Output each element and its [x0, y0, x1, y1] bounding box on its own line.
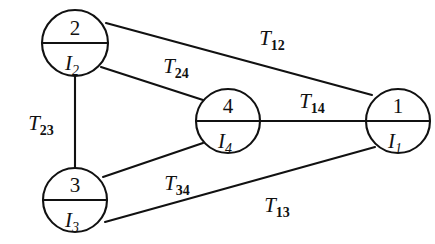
node-3-current-subscript: 3 [71, 220, 79, 235]
node-3[interactable]: 3 I3 [43, 168, 107, 235]
edge-label-24-subscript: 24 [175, 66, 189, 81]
node-1-current-subscript: 1 [395, 141, 402, 156]
edge-line-13 [105, 147, 375, 222]
node-4[interactable]: 4 I4 [196, 89, 260, 156]
edge-label-23-subscript: 23 [40, 123, 54, 138]
diagram-canvas: 2 I2 3 I3 4 I4 1 I1 T12 T24 T23 [0, 0, 435, 244]
node-2-top-label: 2 [70, 16, 81, 40]
edge-label-13: T13 [264, 193, 290, 220]
edge-label-14: T14 [299, 89, 325, 116]
node-2[interactable]: 2 I2 [42, 10, 108, 78]
edge-label-12: T12 [259, 26, 285, 53]
edge-label-23: T23 [28, 111, 54, 138]
network-diagram: 2 I2 3 I3 4 I4 1 I1 T12 T24 T23 [0, 0, 435, 244]
edge-label-24: T24 [163, 54, 189, 81]
edge-label-34-subscript: 34 [176, 183, 190, 198]
node-1[interactable]: 1 I1 [366, 89, 430, 156]
node-4-top-label: 4 [223, 94, 234, 118]
node-4-current-subscript: 4 [225, 141, 232, 156]
node-1-top-label: 1 [393, 94, 404, 118]
node-3-top-label: 3 [70, 173, 81, 197]
edge-label-34: T34 [164, 171, 190, 198]
edge-label-13-subscript: 13 [276, 205, 290, 220]
edge-label-14-subscript: 14 [311, 101, 325, 116]
edge-line-12 [106, 23, 372, 95]
edge-label-12-subscript: 12 [271, 38, 285, 53]
node-2-current-subscript: 2 [72, 63, 79, 78]
edge-line-34 [103, 143, 203, 177]
